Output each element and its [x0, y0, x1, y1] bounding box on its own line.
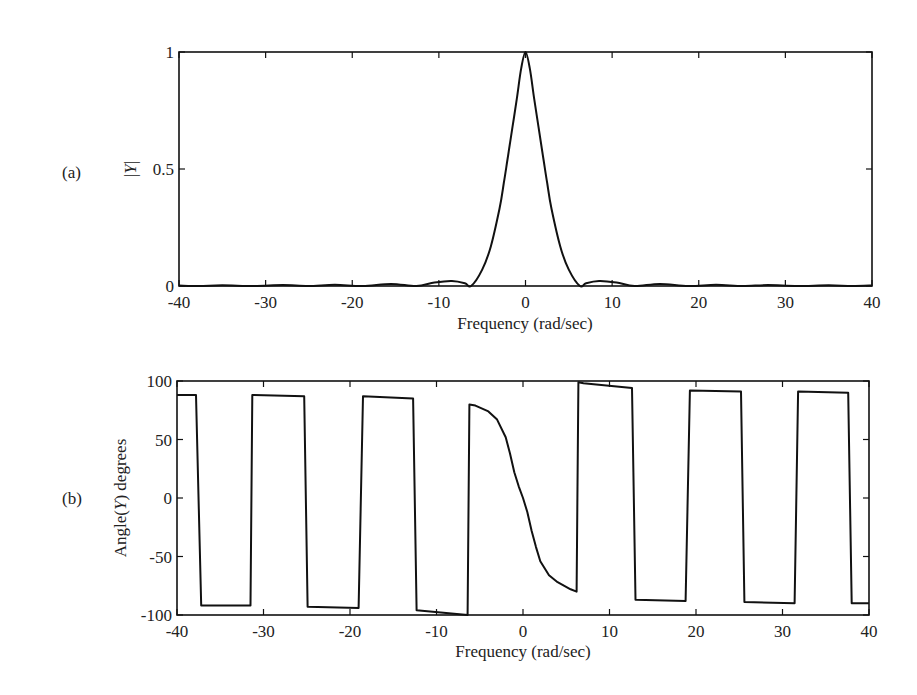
svg-text:|Y|: |Y|: [121, 161, 140, 177]
x-tick-label: 40: [861, 622, 878, 641]
x-tick-label: -10: [425, 622, 448, 641]
x-tick-label: -30: [254, 293, 277, 312]
x-tick-label: 0: [521, 293, 530, 312]
y-axis-title-a: |Y|: [121, 161, 140, 177]
x-tick-label: 30: [777, 293, 794, 312]
magnitude-plot: (a) |Y| -40-30-20-1001020304000.51 Frequ…: [62, 43, 881, 333]
phase-curve: [177, 382, 869, 615]
plot-frame-a: [179, 52, 872, 286]
y-tick-label: 50: [155, 431, 172, 450]
y-tick-label: 0: [164, 489, 173, 508]
x-tick-label: -20: [341, 293, 364, 312]
x-tick-label: -20: [339, 622, 362, 641]
y-tick-label: 0.5: [153, 160, 174, 179]
x-tick-label: 30: [774, 622, 791, 641]
x-axis-title-b: Frequency (rad/sec): [455, 642, 590, 661]
x-tick-label: 20: [690, 293, 707, 312]
y-tick-label: 100: [147, 372, 173, 391]
x-tick-label: 20: [688, 622, 705, 641]
x-tick-label: 10: [604, 293, 621, 312]
x-axis-title-a: Frequency (rad/sec): [457, 314, 592, 333]
y-axis-title-b: Angle(Y) degrees: [111, 439, 130, 558]
panel-label-a: (a): [62, 163, 81, 182]
x-tick-label: 40: [864, 293, 881, 312]
y-tick-label: 0: [166, 277, 175, 296]
x-tick-label: -30: [252, 622, 275, 641]
x-tick-label: -10: [428, 293, 451, 312]
figure: (a) |Y| -40-30-20-1001020304000.51 Frequ…: [0, 0, 917, 695]
panel-label-b: (b): [62, 489, 82, 508]
x-tick-label: 0: [519, 622, 528, 641]
magnitude-curve: [179, 52, 872, 287]
tick-labels-a: -40-30-20-1001020304000.51: [153, 43, 881, 312]
x-tick-label: 10: [601, 622, 618, 641]
y-tick-label: -100: [141, 606, 172, 625]
phase-plot: (b) Angle(Y) degrees -40-30-20-100102030…: [62, 372, 878, 661]
y-tick-label: -50: [149, 548, 172, 567]
axis-ticks-a: [179, 52, 872, 286]
y-tick-label: 1: [166, 43, 175, 62]
svg-text:Angle(Y) degrees: Angle(Y) degrees: [111, 439, 130, 558]
